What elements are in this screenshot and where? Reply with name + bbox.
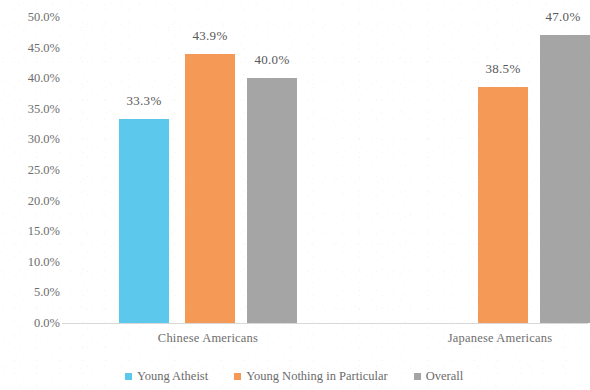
legend-item-young-nothing-in-particular[interactable]: Young Nothing in Particular — [234, 369, 387, 384]
data-label-japanese-young-nothing-in-particular: 38.5% — [485, 61, 520, 77]
legend-label-young-atheist: Young Atheist — [137, 369, 208, 384]
bar-japanese-overall[interactable] — [540, 35, 590, 323]
bar-japanese-young-nothing-in-particular[interactable] — [478, 87, 528, 323]
legend-swatch-blue-icon — [125, 373, 132, 380]
bars-layer — [0, 0, 588, 323]
legend-item-overall[interactable]: Overall — [414, 369, 463, 384]
data-label-japanese-overall: 47.0% — [545, 9, 580, 25]
bar-chinese-overall[interactable] — [247, 78, 297, 323]
data-label-chinese-young-nothing-in-particular: 43.9% — [192, 28, 227, 44]
x-tick-chinese-americans: Chinese Americans — [158, 331, 258, 346]
bar-chinese-young-atheist[interactable] — [119, 119, 169, 323]
legend-swatch-gray-icon — [414, 373, 421, 380]
data-label-chinese-young-atheist: 33.3% — [126, 93, 161, 109]
data-label-chinese-overall: 40.0% — [254, 52, 289, 68]
legend-item-young-atheist[interactable]: Young Atheist — [125, 369, 208, 384]
chart-legend: Young Atheist Young Nothing in Particula… — [0, 364, 588, 388]
plot-area: 50.0% 45.0% 40.0% 35.0% 30.0% 25.0% 20.0… — [0, 0, 588, 332]
legend-swatch-orange-icon — [234, 373, 241, 380]
legend-label-young-nothing-in-particular: Young Nothing in Particular — [246, 369, 387, 384]
bar-chinese-young-nothing-in-particular[interactable] — [185, 54, 235, 323]
x-axis-baseline — [62, 323, 588, 324]
x-tick-japanese-americans: Japanese Americans — [448, 331, 553, 346]
legend-label-overall: Overall — [426, 369, 463, 384]
